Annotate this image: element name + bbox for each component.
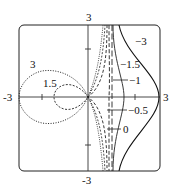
curve-label-neg3: −3: [135, 35, 147, 47]
chart: 3 -3 -3 3 3 1.5 −3 −1.5 −1 −0.5 0: [0, 0, 171, 186]
curve-label-1.5: 1.5: [43, 77, 57, 89]
curve-label-neg0.5: −0.5: [128, 104, 148, 116]
curve-0: [88, 25, 107, 171]
curve-label-neg1.5: −1.5: [120, 58, 140, 70]
curve-upper-dash1: [88, 25, 105, 97]
curve-label-3: 3: [30, 58, 36, 70]
curve-upper-dotted: [88, 25, 103, 97]
curve-neg1.5: [113, 25, 124, 171]
x-min-label: -3: [3, 91, 13, 103]
x-max-label: 3: [163, 91, 169, 103]
curve-label-neg1: −1: [129, 74, 141, 86]
curve-label-0: 0: [123, 123, 129, 135]
y-max-label: 3: [86, 11, 92, 23]
y-min-label: -3: [82, 174, 92, 186]
curve-lower-dash1: [88, 97, 105, 171]
